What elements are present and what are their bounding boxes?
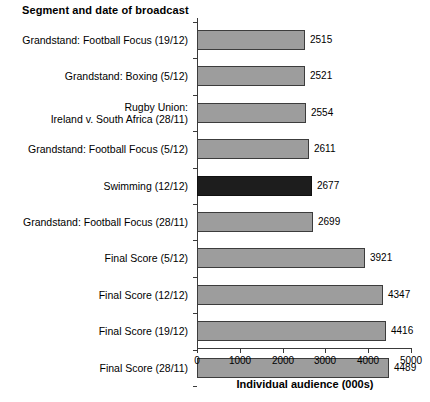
x-axis-tick-label: 2000 — [263, 355, 303, 366]
x-axis-tick — [283, 349, 284, 353]
category-label: Grandstand: Football Focus (5/12) — [0, 143, 188, 155]
bar — [197, 321, 386, 341]
bar — [197, 285, 383, 305]
chart-title: Segment and date of broadcast — [22, 4, 189, 16]
x-axis-tick — [325, 349, 326, 353]
x-axis-tick-label: 3000 — [305, 355, 345, 366]
y-axis-tick — [193, 204, 197, 205]
y-axis-tick — [193, 168, 197, 169]
bar — [197, 212, 313, 232]
bar-value-label: 4347 — [388, 285, 410, 305]
bar-value-label: 4416 — [391, 321, 413, 341]
category-label: Swimming (12/12) — [0, 180, 188, 192]
category-label: Final Score (19/12) — [0, 325, 188, 337]
bar-value-label: 3921 — [370, 248, 392, 268]
plot-area: 2515252125542611267726993921434744164489 — [197, 18, 411, 348]
category-label: Grandstand: Football Focus (28/11) — [0, 216, 188, 228]
y-axis-tick — [193, 313, 197, 314]
bar-value-label: 2521 — [310, 66, 332, 86]
y-axis-tick — [193, 22, 197, 23]
bar — [197, 176, 312, 196]
bar-value-label: 2699 — [318, 212, 340, 232]
category-label: Rugby Union: Ireland v. South Africa (28… — [0, 101, 188, 125]
x-axis-tick-label: 4000 — [348, 355, 388, 366]
x-axis-tick — [368, 349, 369, 353]
x-axis-tick — [411, 349, 412, 353]
category-label: Final Score (5/12) — [0, 252, 188, 264]
bar-chart: Segment and date of broadcast 2515252125… — [0, 0, 430, 402]
x-axis-label: Individual audience (000s) — [197, 378, 413, 390]
category-label: Final Score (12/12) — [0, 289, 188, 301]
x-axis-tick-label: 5000 — [391, 355, 430, 366]
bar-value-label: 2554 — [311, 103, 333, 123]
x-axis-line — [197, 348, 412, 349]
bar — [197, 66, 305, 86]
x-axis-tick — [240, 349, 241, 353]
category-label: Final Score (28/11) — [0, 362, 188, 374]
bar — [197, 139, 309, 159]
category-label: Grandstand: Boxing (5/12) — [0, 70, 188, 82]
bar-value-label: 2677 — [317, 176, 339, 196]
bar — [197, 30, 305, 50]
y-axis-tick — [193, 240, 197, 241]
bar — [197, 248, 365, 268]
bar — [197, 103, 306, 123]
y-axis-tick — [193, 277, 197, 278]
y-axis-tick — [193, 95, 197, 96]
category-label: Grandstand: Football Focus (19/12) — [0, 34, 188, 46]
x-axis-tick — [197, 349, 198, 353]
bar-value-label: 2611 — [314, 139, 336, 159]
y-axis-tick — [193, 58, 197, 59]
bar-value-label: 2515 — [310, 30, 332, 50]
y-axis-tick — [193, 131, 197, 132]
x-axis-tick-label: 1000 — [220, 355, 260, 366]
